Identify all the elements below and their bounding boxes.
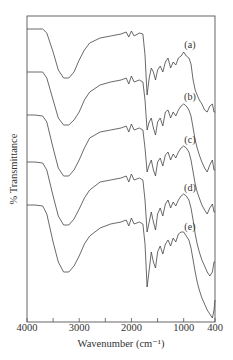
- spectra-series: [27, 29, 215, 318]
- spectrum-line: [27, 162, 215, 276]
- series-label: (d): [184, 182, 196, 193]
- series-label: (e): [184, 221, 195, 232]
- series-label: (c): [184, 134, 195, 145]
- x-tick-label: 1000: [173, 322, 194, 333]
- x-tick-label: 3000: [69, 322, 90, 333]
- spectrum-line: [27, 115, 215, 214]
- x-tick-label: 2000: [121, 322, 142, 333]
- series-label: (a): [184, 39, 195, 50]
- x-axis-label: Wavenumber (cm⁻¹): [78, 337, 165, 349]
- x-tick-label: 4000: [17, 322, 38, 333]
- plot-frame: [27, 16, 215, 322]
- y-axis-label: % Transmittance: [8, 134, 19, 205]
- series-label: (b): [184, 91, 196, 102]
- x-tick-label: 400: [207, 322, 223, 333]
- ftir-chart: [0, 0, 233, 360]
